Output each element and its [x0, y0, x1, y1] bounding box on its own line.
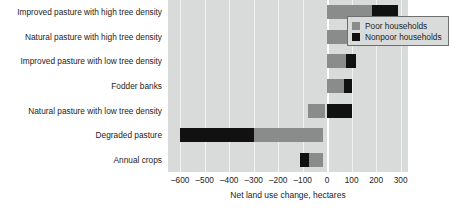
legend-label: Nonpoor households: [365, 32, 442, 42]
bar-row: [168, 128, 408, 142]
x-tick-label: –400: [220, 175, 238, 185]
bar-row: [168, 79, 408, 93]
x-tick-label: –500: [196, 175, 214, 185]
x-tick-label: 0: [325, 175, 330, 185]
x-tick-label: –300: [244, 175, 262, 185]
legend-label: Poor households: [365, 21, 427, 31]
x-tick-label: –200: [269, 175, 287, 185]
category-label: Degraded pasture: [0, 130, 162, 140]
x-axis: –600–500–400–300–200–1000100200300: [168, 172, 408, 188]
legend-item: Nonpoor households: [352, 31, 442, 42]
x-tick-label: 300: [394, 175, 408, 185]
x-tick-label: 200: [369, 175, 383, 185]
x-axis-title: Net land use change, hectares: [168, 190, 408, 200]
x-tick-label: –100: [293, 175, 311, 185]
legend-item: Poor households: [352, 20, 442, 31]
plot-area: Poor householdsNonpoor households: [168, 0, 408, 172]
category-axis: Improved pasture with high tree densityN…: [0, 0, 164, 172]
legend: Poor householdsNonpoor households: [347, 16, 449, 46]
category-label: Improved pasture with high tree density: [0, 7, 162, 17]
bar-segment: [300, 153, 309, 167]
bar-segment: [327, 104, 352, 118]
bar-segment: [327, 30, 349, 44]
bar-row: [168, 104, 408, 118]
bar-row: [168, 153, 408, 167]
category-label: Natural pasture with low tree density: [0, 106, 162, 116]
bar-segment: [346, 54, 357, 68]
bar-segment: [327, 54, 345, 68]
category-label: Natural pasture with high tree density: [0, 32, 162, 42]
bar-segment: [344, 79, 351, 93]
legend-swatch-icon: [352, 33, 360, 41]
bar-row: [168, 54, 408, 68]
category-label: Fodder banks: [0, 81, 162, 91]
bar-segment: [254, 128, 323, 142]
category-label: Improved pasture with low tree density: [0, 56, 162, 66]
x-tick-label: 100: [345, 175, 359, 185]
bar-segment: [308, 104, 326, 118]
x-tick-label: –600: [171, 175, 189, 185]
category-label: Annual crops: [0, 155, 162, 165]
bar-segment: [309, 153, 323, 167]
legend-swatch-icon: [352, 22, 360, 30]
bar-segment: [327, 79, 344, 93]
bar-segment: [180, 128, 254, 142]
